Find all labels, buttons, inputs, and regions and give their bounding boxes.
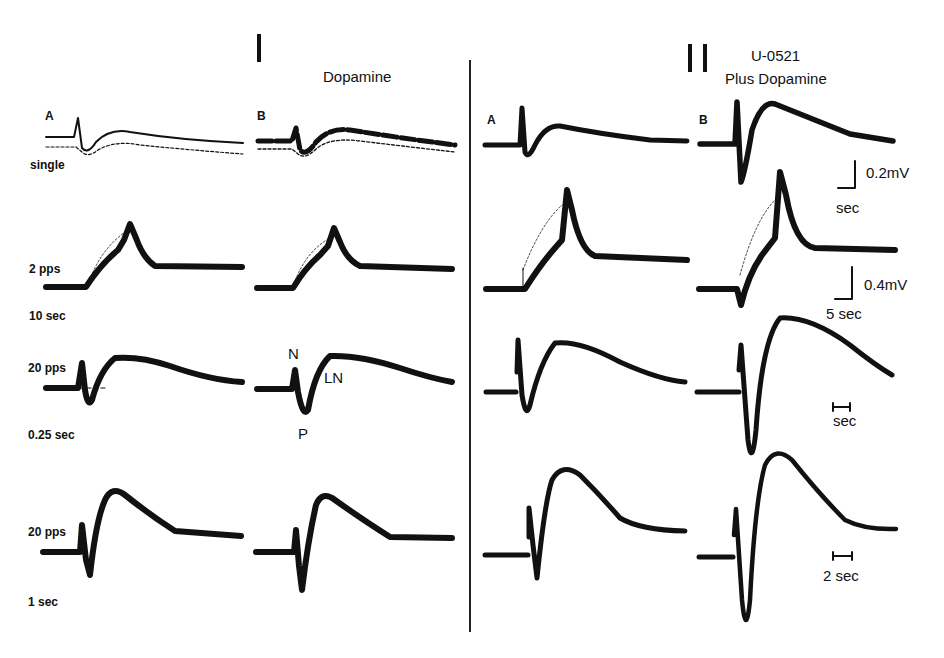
trace-II-A-20pps-0.25 <box>486 340 685 411</box>
scale-bar-3 <box>833 403 850 411</box>
trace-II-B-20pps-1 <box>699 454 896 620</box>
trace-II-A-20pps-1 <box>485 470 685 578</box>
trace-II-A-2pps <box>486 190 687 290</box>
trace-I-A-2pps <box>46 224 242 287</box>
trace-II-B-2pps <box>699 172 895 305</box>
trace-I-A-single <box>46 118 243 155</box>
scale-bar-4 <box>833 552 852 560</box>
trace-I-B-20pps-1 <box>256 496 452 590</box>
trace-I-B-20pps-0.25 <box>257 356 452 412</box>
trace-I-B-single <box>258 128 455 156</box>
trace-II-B-single <box>700 102 893 182</box>
trace-canvas <box>0 0 944 658</box>
trace-I-A-20pps-1 <box>43 491 241 575</box>
trace-I-B-2pps <box>257 228 452 288</box>
trace-II-B-20pps-0.25 <box>697 318 892 453</box>
scale-bar-2 <box>835 267 852 299</box>
scale-bar-1 <box>838 161 855 188</box>
trace-II-A-single <box>485 108 687 155</box>
trace-I-A-20pps-0.25 <box>46 358 242 403</box>
